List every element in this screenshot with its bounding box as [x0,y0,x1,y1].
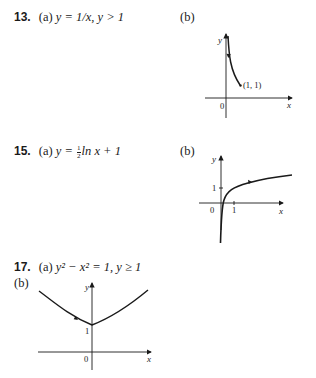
x-axis-label: x [278,206,283,216]
equation-lhs: y = [56,144,76,158]
y-axis-label: y [84,282,89,292]
x-tick-label: 1 [232,205,236,215]
fraction: 12 [77,145,81,160]
problem-15-part-b-label: (b) [180,144,195,159]
y-tick-label: 1 [85,326,89,336]
problem-17-part-b-label: (b) [14,276,29,291]
graph-17: y 1 0 x [38,282,151,370]
part-label: (a) [39,144,53,158]
x-axis-label: x [146,354,151,364]
point-label: (1, 1) [243,80,262,90]
origin-label: 0 [84,354,88,364]
x-axis-label: x [286,100,291,110]
part-label: (a) [39,260,53,274]
fraction-numerator: 1 [77,145,81,152]
problem-17-part-a: 17. (a) y² − x² = 1, y ≥ 1 [14,260,141,275]
equation: y² − x² = 1, y ≥ 1 [56,260,141,274]
graph-15: y 1 1 0 x [199,154,292,243]
fraction-denominator: 2 [77,152,81,160]
curve [39,290,148,325]
equation-rhs: ln x + 1 [82,144,121,158]
y-axis-label: y [217,35,222,45]
origin-label: 0 [210,205,214,215]
direction-arrow [248,180,252,184]
curve [228,36,240,85]
origin-label: 0 [220,101,224,111]
problem-15-part-a: 15. (a) y = 12ln x + 1 [14,144,121,160]
problem-number: 17. [14,260,31,274]
y-axis-label: y [211,154,216,164]
problem-number: 15. [14,144,31,158]
graph-13: y x 0 (1, 1) y 1 1 0 x y 1 0 x [0,0,316,378]
endpoint [239,84,241,86]
y-tick-label: 1 [212,183,216,193]
